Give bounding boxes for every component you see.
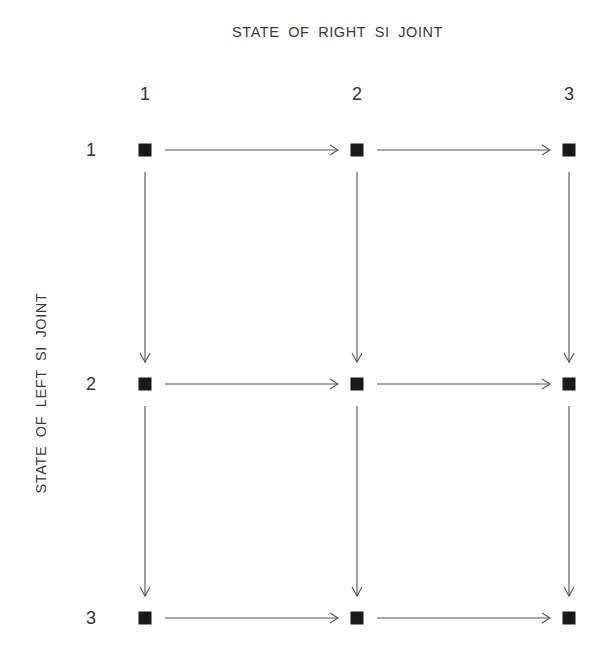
state-node-1-1 (139, 144, 152, 157)
transition-arrow (377, 379, 550, 389)
state-node-1-3 (563, 144, 576, 157)
transition-arrow (352, 172, 362, 362)
state-node-3-3 (563, 612, 576, 625)
transition-arrow (564, 172, 574, 362)
state-node-2-3 (563, 378, 576, 391)
transition-arrow (140, 406, 150, 596)
transition-arrow (377, 613, 550, 623)
transition-arrow (377, 145, 550, 155)
transition-arrow (165, 613, 338, 623)
state-node-3-1 (139, 612, 152, 625)
transition-arrow (564, 406, 574, 596)
transition-arrow (140, 172, 150, 362)
transition-arrow (165, 379, 338, 389)
state-node-2-1 (139, 378, 152, 391)
transition-arrow (352, 406, 362, 596)
state-transition-grid (0, 0, 612, 656)
transition-arrow (165, 145, 338, 155)
state-node-2-2 (351, 378, 364, 391)
state-node-3-2 (351, 612, 364, 625)
state-node-1-2 (351, 144, 364, 157)
